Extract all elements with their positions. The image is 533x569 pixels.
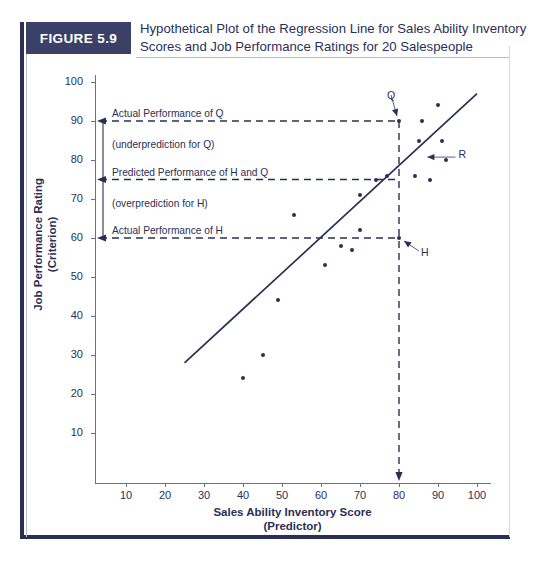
y-axis-tick-label: 90 (57, 114, 83, 126)
y-axis-tick-label: 60 (57, 231, 83, 243)
x-axis-tick-label: 60 (308, 489, 334, 501)
data-point (292, 213, 296, 217)
figure-page: FIGURE 5.9 Hypothetical Plot of the Regr… (0, 0, 533, 569)
x-axis-tick (204, 483, 205, 487)
y-axis-tick (91, 433, 95, 434)
arrowhead-r (427, 154, 434, 160)
x-axis-tick-label: 100 (464, 489, 490, 501)
data-point (397, 119, 401, 123)
data-point (397, 236, 401, 240)
annotation-predicted-performance-of-h-and-q: Predicted Performance of H and Q (112, 167, 268, 178)
data-point (374, 178, 378, 182)
x-axis-tick (399, 483, 400, 487)
x-axis-tick-label: 10 (113, 489, 139, 501)
y-axis-tick (91, 160, 95, 161)
data-point (440, 139, 444, 143)
y-axis-tick (91, 82, 95, 83)
data-point (350, 248, 354, 252)
x-axis-tick-label: 50 (269, 489, 295, 501)
x-axis-title-line-2: (Predictor) (95, 519, 490, 533)
data-point (444, 158, 448, 162)
x-axis-tick-label: 90 (425, 489, 451, 501)
y-axis-tick (91, 316, 95, 317)
x-axis-tick (165, 483, 166, 487)
x-axis-tick-label: 80 (386, 489, 412, 501)
x-axis-tick (477, 483, 478, 487)
x-axis-tick-label: 20 (152, 489, 178, 501)
y-axis-title-line-1: Job Performance Rating (31, 159, 45, 329)
arrowhead-case-score (395, 472, 402, 481)
x-axis-tick (243, 483, 244, 487)
y-axis-tick (91, 238, 95, 239)
x-axis-tick (321, 483, 322, 487)
x-axis-tick-label: 70 (347, 489, 373, 501)
x-axis-title: Sales Ability Inventory Score (Predictor… (95, 505, 490, 534)
y-axis-tick-label: 30 (57, 348, 83, 360)
y-axis-tick-label: 50 (57, 270, 83, 282)
y-axis-tick-label: 10 (57, 426, 83, 438)
point-label-q: Q (387, 89, 395, 101)
y-axis-tick-label: 100 (57, 75, 83, 87)
y-axis-tick-label: 40 (57, 309, 83, 321)
x-axis-tick (282, 483, 283, 487)
regression-line (185, 94, 478, 363)
data-point (417, 139, 421, 143)
y-axis-tick-label: 20 (57, 387, 83, 399)
annotation-actual-performance-of-h: Actual Performance of H (112, 225, 223, 236)
scatter-plot: Job Performance Rating (Criterion) Sales… (0, 0, 533, 569)
data-point (413, 174, 417, 178)
x-axis-line (95, 483, 491, 484)
x-axis-tick (360, 483, 361, 487)
x-axis-tick-label: 30 (191, 489, 217, 501)
data-point (339, 244, 343, 248)
y-axis-tick-label: 80 (57, 153, 83, 165)
data-point (261, 353, 265, 357)
point-label-r: R (458, 148, 466, 160)
point-label-h: H (421, 246, 429, 258)
y-axis-title-line-2: (Criterion) (45, 159, 59, 329)
x-axis-tick (438, 483, 439, 487)
x-axis-title-line-1: Sales Ability Inventory Score (95, 505, 490, 519)
y-axis-line (95, 75, 96, 484)
annotation-actual-performance-of-q: Actual Performance of Q (112, 108, 224, 119)
y-axis-tick (91, 394, 95, 395)
y-axis-title: Job Performance Rating (Criterion) (31, 159, 60, 329)
y-axis-tick (91, 277, 95, 278)
y-axis-tick (91, 355, 95, 356)
data-point (385, 174, 389, 178)
annotation-underprediction-for-q: (underprediction for Q) (112, 139, 215, 150)
y-axis-tick-label: 70 (57, 192, 83, 204)
arrowhead-h (404, 241, 412, 248)
arrowhead-q (392, 108, 398, 116)
annotation-overprediction-for-h: (overprediction for H) (112, 198, 208, 209)
x-axis-tick (126, 483, 127, 487)
y-axis-tick (91, 121, 95, 122)
data-point (428, 178, 432, 182)
y-axis-tick (91, 199, 95, 200)
x-axis-tick-label: 40 (230, 489, 256, 501)
